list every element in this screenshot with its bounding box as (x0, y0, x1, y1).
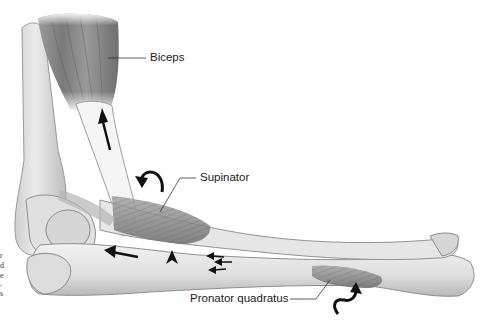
caption-fragment: , (0, 280, 2, 288)
label-supinator: Supinator (200, 172, 249, 184)
caption-fragment: d (0, 262, 4, 270)
anatomy-figure: Biceps Supinator Pronator quadratus r d … (0, 0, 492, 330)
supination-rotation-arrow-icon (135, 172, 162, 192)
label-biceps: Biceps (150, 52, 185, 64)
caption-fragment: s (0, 290, 3, 298)
caption-fragment: r (0, 252, 3, 260)
label-pronator-quadratus: Pronator quadratus (190, 293, 288, 305)
elbow-illustration (0, 0, 492, 330)
